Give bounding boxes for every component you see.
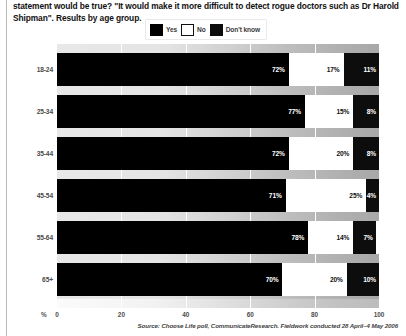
chart-bar-row[interactable]: 71%25%4% [57,179,379,212]
band-tick [121,128,122,137]
axis-tick [121,299,122,308]
bar-segment-don-t-know[interactable]: 11% [344,53,379,86]
band-tick [250,44,251,53]
band-tick [315,128,316,137]
bar-value-label: 15% [336,108,349,115]
bar-value-label: 70% [266,276,279,283]
chart-bar-row[interactable]: 70%20%10% [57,263,379,296]
bar-segment-no[interactable]: 20% [289,137,353,170]
bar-segment-don-t-know[interactable]: 8% [353,137,379,170]
bar-segment-yes[interactable]: 70% [57,263,282,296]
legend-item-don-t-know: Don't know [210,24,260,36]
band-tick [315,44,316,53]
band-tick [121,254,122,263]
bar-segment-don-t-know[interactable]: 8% [353,95,379,128]
legend-label: Don't know [226,26,260,33]
legend-label: Yes [166,26,177,33]
x-axis-track [57,299,379,308]
category-label-3544: 35-44 [3,150,53,157]
bar-value-label: 71% [269,192,282,199]
row-separator-band-2 [57,128,379,137]
x-axis-unit-label: % [41,311,47,318]
band-tick [250,254,251,263]
chart-bar-row[interactable]: 72%17%11% [57,53,379,86]
bar-value-label: 10% [363,276,376,283]
bar-segment-yes[interactable]: 71% [57,179,286,212]
bar-value-label: 72% [272,150,285,157]
band-tick [250,86,251,95]
band-tick [250,170,251,179]
axis-tick [250,299,251,308]
page-margin-rule [6,0,7,336]
row-separator-band-5 [57,254,379,263]
chart-plot-area: 72%17%11%18-2477%15%8%25-3472%20%8%35-44… [57,44,379,298]
bar-segment-no[interactable]: 15% [305,95,353,128]
band-tick [186,170,187,179]
band-tick [121,86,122,95]
x-axis-tick-label: 80 [311,311,318,318]
axis-tick [186,299,187,308]
band-tick [186,86,187,95]
row-separator-band-1 [57,86,379,95]
bar-segment-don-t-know[interactable]: 10% [347,263,379,296]
band-tick [315,212,316,221]
band-tick [121,44,122,53]
category-label-65: 65+ [3,276,53,283]
x-axis-tick-label: 0 [55,311,59,318]
category-label-1824: 18-24 [3,66,53,73]
band-tick [315,170,316,179]
band-tick [121,212,122,221]
band-tick [186,128,187,137]
band-tick [186,44,187,53]
band-tick [186,212,187,221]
x-axis-tick-label: 40 [182,311,189,318]
bar-value-label: 20% [330,276,343,283]
bar-value-label: 77% [288,108,301,115]
bar-segment-no[interactable]: 20% [282,263,346,296]
legend-label: No [197,26,206,33]
chart-legend: YesNoDon't know [146,20,266,39]
bar-value-label: 25% [349,192,362,199]
source-note: Source: Choose Life poll, CommunicateRes… [138,322,398,329]
legend-swatch-icon [181,24,194,36]
bar-value-label: 7% [364,234,373,241]
category-label-4554: 45-54 [3,192,53,199]
row-separator-band-4 [57,212,379,221]
bar-segment-yes[interactable]: 72% [57,137,289,170]
bar-segment-no[interactable]: 14% [308,221,353,254]
band-tick [250,128,251,137]
bar-segment-don-t-know[interactable]: 7% [353,221,376,254]
bar-value-label: 11% [364,66,376,73]
bar-segment-yes[interactable]: 72% [57,53,289,86]
bar-segment-yes[interactable]: 78% [57,221,308,254]
bar-segment-yes[interactable]: 77% [57,95,305,128]
bar-value-label: 8% [367,108,376,115]
bar-value-label: 8% [367,150,376,157]
chart-bar-row[interactable]: 78%14%7% [57,221,379,254]
row-separator-band-0 [57,44,379,53]
row-separator-band-3 [57,170,379,179]
bar-value-label: 17% [327,66,340,73]
band-tick [315,86,316,95]
legend-swatch-icon [210,24,223,36]
legend-item-yes: Yes [150,24,177,36]
category-label-2534: 25-34 [3,108,53,115]
chart-bar-row[interactable]: 72%20%8% [57,137,379,170]
chart-bar-row[interactable]: 77%15%8% [57,95,379,128]
bar-value-label: 78% [291,234,304,241]
legend-item-no: No [181,24,206,36]
bar-value-label: 4% [367,192,376,199]
bar-value-label: 14% [336,234,349,241]
bar-segment-don-t-know[interactable]: 4% [366,179,379,212]
bar-value-label: 20% [336,150,349,157]
x-axis-tick-label: 100 [374,311,385,318]
axis-tick [315,299,316,308]
category-label-5564: 55-64 [3,234,53,241]
legend-swatch-icon [150,24,163,36]
band-tick [315,254,316,263]
x-axis-tick-label: 20 [118,311,125,318]
bar-segment-no[interactable]: 25% [286,179,367,212]
band-tick [250,212,251,221]
bar-value-label: 72% [272,66,285,73]
bar-segment-no[interactable]: 17% [289,53,344,86]
